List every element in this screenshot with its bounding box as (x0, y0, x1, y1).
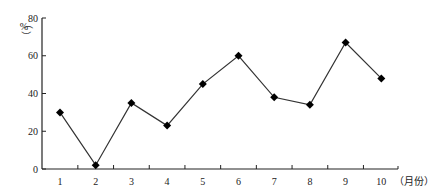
diamond-marker (306, 101, 314, 109)
x-unit-label: （月份） (394, 176, 434, 187)
y-tick-label: 40 (28, 88, 38, 99)
x-tick-label: 5 (200, 176, 205, 187)
y-tick-label: 60 (28, 50, 38, 61)
x-tick-label: 3 (129, 176, 134, 187)
y-unit-close: ） (20, 31, 31, 41)
series-line (60, 43, 381, 166)
x-tick-label: 1 (58, 176, 63, 187)
x-tick-label: 9 (343, 176, 348, 187)
data-series (56, 39, 385, 170)
x-tick-label: 4 (165, 176, 170, 187)
x-tick-label: 6 (236, 176, 241, 187)
axis-units: （ % ） （月份） (20, 19, 434, 187)
y-tick-label: 20 (28, 126, 38, 137)
diamond-marker (127, 99, 135, 107)
x-tick-label: 7 (272, 176, 277, 187)
x-tick-label: 10 (376, 176, 386, 187)
diamond-marker (56, 108, 64, 116)
x-tick-label: 2 (93, 176, 98, 187)
diamond-marker (92, 161, 100, 169)
line-chart: 020406080 12345678910 （ % ） （月份） (0, 0, 438, 195)
x-tick-label: 8 (307, 176, 312, 187)
y-tick-label: 0 (33, 164, 38, 175)
